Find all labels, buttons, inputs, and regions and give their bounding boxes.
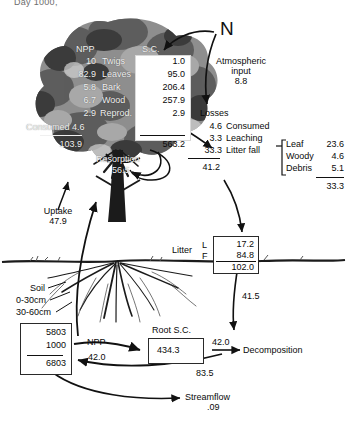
root-sc-label: Root S.C. — [152, 325, 191, 335]
streamflow-value: .09 — [207, 402, 220, 412]
soil-value-1: 5803 — [21, 327, 66, 337]
soil-pool-box: 5803 1000 6803 — [20, 323, 72, 375]
decomposition-to-soil-value: 83.5 — [196, 368, 214, 378]
root-sc-box: 434.3 — [148, 338, 204, 364]
root-npp-value: 42.0 — [88, 352, 106, 362]
soil-total: 6803 — [21, 358, 66, 368]
root-npp-label: NPP — [87, 337, 106, 347]
root-sc-value: 434.3 — [157, 345, 180, 355]
nitrogen-cycle-diagram: Day 1000, — [0, 0, 347, 425]
decomposition-label: Decomposition — [243, 345, 303, 355]
root-turnover-value: 42.0 — [212, 337, 230, 347]
soil-value-2: 1000 — [21, 340, 66, 350]
streamflow-label: Streamflow — [185, 392, 230, 402]
soil-rule — [27, 355, 63, 356]
